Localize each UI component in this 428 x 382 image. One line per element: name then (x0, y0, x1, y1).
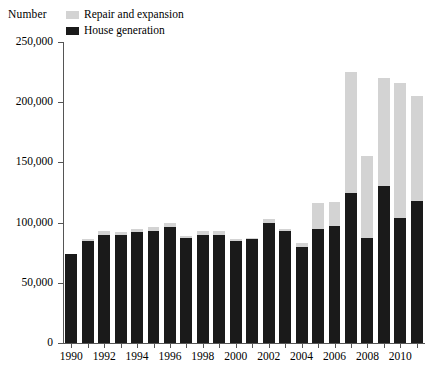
x-axis-line (63, 343, 425, 344)
y-axis-tick-label: 50,000 (21, 276, 53, 288)
bar-stack (213, 231, 225, 343)
x-axis-tick-label: 2006 (323, 350, 346, 362)
x-axis-tick (269, 343, 270, 348)
bar-segment (246, 239, 258, 343)
bar-segment (164, 223, 176, 228)
bar-segment (197, 231, 209, 235)
x-axis-tick (154, 343, 155, 348)
bar-segment (263, 223, 275, 343)
legend-item-repair-and-expansion: Repair and expansion (66, 7, 296, 22)
x-axis-tick (285, 343, 286, 348)
bar-segment (329, 202, 341, 226)
bar-segment (246, 238, 258, 239)
x-axis-tick-label: 2008 (356, 350, 379, 362)
bar-stack (65, 254, 77, 343)
bar-segment (131, 232, 143, 343)
x-axis-tick (236, 343, 237, 348)
y-axis-tick-label: 150,000 (16, 155, 53, 167)
bar-segment (82, 239, 94, 240)
x-axis-tick (186, 343, 187, 348)
bar-segment (296, 243, 308, 247)
bar-segment (148, 227, 160, 231)
bar-segment (411, 201, 423, 343)
x-axis-tick-label: 1992 (93, 350, 116, 362)
bar-chart: Number Repair and expansion House genera… (0, 0, 428, 382)
bar-stack (197, 231, 209, 343)
y-axis-line (63, 42, 64, 343)
bar-segment (82, 241, 94, 343)
bar-segment (98, 231, 110, 235)
x-axis-tick-label: 2002 (257, 350, 280, 362)
bar-stack (180, 236, 192, 343)
bar-segment (115, 235, 127, 343)
bar-stack (98, 231, 110, 343)
x-axis-tick-label: 1994 (126, 350, 149, 362)
bar-segment (98, 235, 110, 343)
x-axis-tick (170, 343, 171, 348)
x-axis-tick (219, 343, 220, 348)
bar-stack (411, 96, 423, 343)
bar-segment (296, 247, 308, 343)
x-axis-tick (335, 343, 336, 348)
bar-stack (263, 219, 275, 343)
bar-stack (296, 243, 308, 343)
x-axis-tick (104, 343, 105, 348)
x-axis-tick-label: 2000 (224, 350, 247, 362)
bar-segment (279, 229, 291, 231)
bar-segment (180, 236, 192, 238)
y-axis-tick-label: 200,000 (16, 95, 53, 107)
bar-stack (329, 202, 341, 343)
bar-segment (115, 232, 127, 234)
x-axis-tick (367, 343, 368, 348)
bar-stack (394, 83, 406, 343)
x-axis-tick (137, 343, 138, 348)
bar-segment (394, 83, 406, 218)
legend-swatch-house-generation (66, 27, 79, 35)
x-axis-tick (302, 343, 303, 348)
x-axis-tick (88, 343, 89, 348)
bar-stack (131, 229, 143, 343)
legend-item-house-generation: House generation (66, 23, 296, 38)
bar-segment (378, 78, 390, 186)
chart-legend: Repair and expansion House generation (66, 7, 296, 39)
bar-segment (230, 239, 242, 240)
bar-stack (361, 156, 373, 343)
bar-stack (279, 229, 291, 343)
bar-stack (246, 238, 258, 343)
bar-segment (213, 231, 225, 235)
bar-stack (378, 78, 390, 343)
bar-stack (230, 239, 242, 343)
bar-segment (312, 229, 324, 343)
bar-segment (213, 235, 225, 343)
bar-segment (411, 96, 423, 201)
y-axis-tick: 150,000 (58, 162, 63, 163)
x-axis-tick (417, 343, 418, 348)
bar-segment (148, 231, 160, 343)
x-axis-tick (351, 343, 352, 348)
legend-swatch-repair-and-expansion (66, 11, 79, 19)
bar-segment (394, 218, 406, 343)
bar-segment (164, 227, 176, 343)
y-axis-tick: 250,000 (58, 42, 63, 43)
bar-segment (279, 231, 291, 343)
bar-segment (345, 193, 357, 344)
bar-segment (312, 203, 324, 228)
bar-stack (115, 232, 127, 343)
y-axis-unit-label: Number (8, 8, 47, 20)
bar-segment (197, 235, 209, 343)
y-axis-tick-label: 100,000 (16, 216, 53, 228)
y-axis-tick-label: 250,000 (16, 35, 53, 47)
bar-stack (148, 227, 160, 343)
bar-segment (131, 229, 143, 233)
x-axis-tick-label: 1996 (158, 350, 181, 362)
bar-stack (82, 239, 94, 343)
y-axis-tick: 50,000 (58, 283, 63, 284)
y-axis-tick: 200,000 (58, 102, 63, 103)
y-axis-tick: 100,000 (58, 223, 63, 224)
y-axis-tick: 0 (58, 343, 63, 344)
x-axis-tick (121, 343, 122, 348)
bar-segment (329, 226, 341, 343)
x-axis-tick (400, 343, 401, 348)
bar-stack (312, 203, 324, 343)
x-axis-tick (318, 343, 319, 348)
